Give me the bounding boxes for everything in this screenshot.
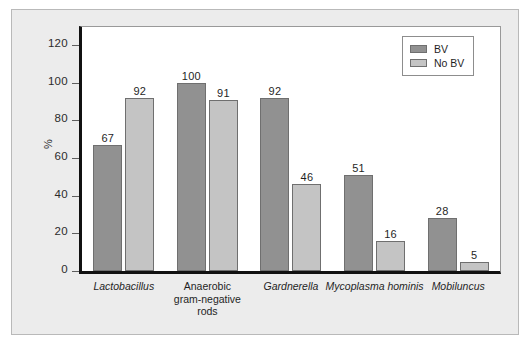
y-tick-label: 60 — [55, 150, 68, 162]
x-axis-label-line: rods — [154, 305, 262, 318]
bar-bv[interactable]: 28 — [428, 218, 457, 271]
y-tick-label: 80 — [55, 112, 68, 124]
figure-panel: % 020406080100120 67921009192465116285 L… — [11, 9, 519, 335]
bar-group: 9246 — [249, 26, 333, 271]
legend-swatch-icon — [410, 59, 427, 67]
bar-value-label: 28 — [436, 205, 449, 217]
bar-value-label: 16 — [384, 228, 397, 240]
y-tick-mark — [72, 83, 79, 84]
bar-bv[interactable]: 67 — [93, 145, 122, 271]
y-tick-mark — [72, 196, 79, 197]
x-axis-label-line: Mobiluncus — [404, 280, 512, 293]
x-axis-label-4: Mobiluncus — [404, 280, 512, 293]
y-tick-mark — [72, 120, 79, 121]
legend-label: BV — [434, 43, 448, 55]
y-tick-mark — [72, 271, 79, 272]
x-axis-label-line: gram-negative — [154, 293, 262, 306]
y-tick-mark — [72, 158, 79, 159]
y-tick-label: 20 — [55, 225, 68, 237]
bar-bv[interactable]: 51 — [344, 175, 373, 271]
bar-value-label: 91 — [217, 87, 230, 99]
legend-item-bv[interactable]: BV — [410, 42, 464, 56]
bar-bv[interactable]: 92 — [260, 98, 289, 271]
bar-group: 6792 — [82, 26, 166, 271]
y-tick-mark — [72, 233, 79, 234]
bar-value-label: 100 — [182, 70, 201, 82]
y-tick-label: 0 — [61, 263, 68, 275]
bar-no-bv[interactable]: 92 — [125, 98, 154, 271]
y-axis-label: % — [42, 127, 54, 161]
y-tick-label: 120 — [48, 37, 68, 49]
bar-value-label: 5 — [471, 249, 477, 261]
bar-no-bv[interactable]: 5 — [460, 262, 489, 271]
bar-value-label: 92 — [269, 85, 282, 97]
legend-item-no-bv[interactable]: No BV — [410, 56, 464, 70]
x-axis-labels: LactobacillusAnaerobicgram-negativerodsG… — [82, 280, 500, 330]
bar-group: 10091 — [166, 26, 250, 271]
legend-swatch-icon — [410, 45, 427, 53]
legend-label: No BV — [434, 57, 464, 69]
bar-bv[interactable]: 100 — [177, 83, 206, 271]
bar-value-label: 67 — [101, 132, 114, 144]
bar-no-bv[interactable]: 16 — [376, 241, 405, 271]
bar-no-bv[interactable]: 46 — [292, 184, 321, 271]
bar-no-bv[interactable]: 91 — [209, 100, 238, 272]
bar-value-label: 51 — [352, 162, 365, 174]
bar-value-label: 92 — [133, 85, 146, 97]
y-tick-label: 40 — [55, 188, 68, 200]
y-tick-mark — [72, 45, 79, 46]
y-tick-label: 100 — [48, 75, 68, 87]
chart-legend: BVNo BV — [402, 36, 474, 76]
bar-value-label: 46 — [301, 171, 314, 183]
